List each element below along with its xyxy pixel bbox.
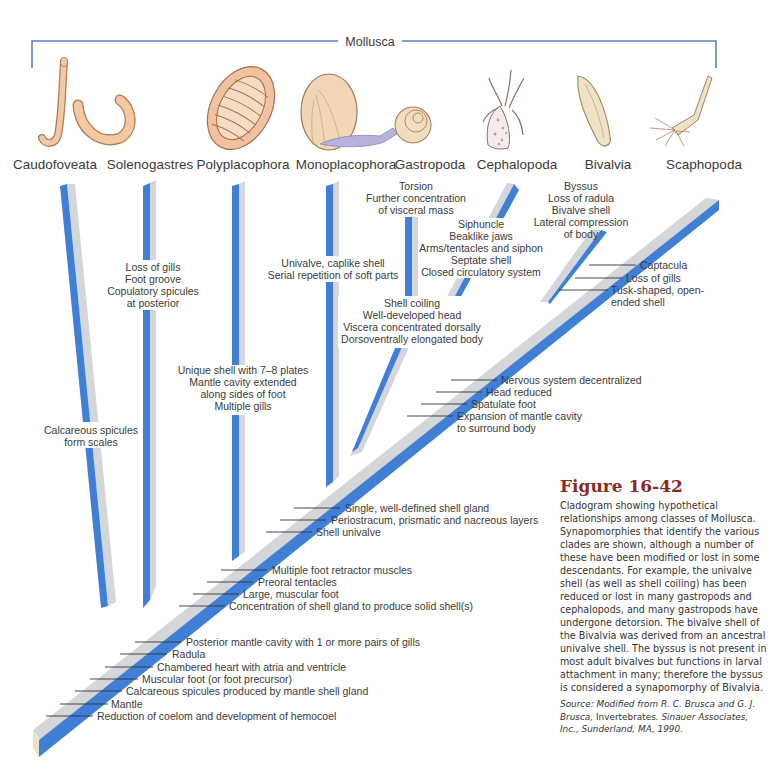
trait: Loss of gills (126, 261, 181, 273)
trait: Bivalve shell (552, 204, 610, 216)
taxon-gastropoda: Gastropoda (395, 157, 466, 172)
trait: Radula (172, 648, 205, 660)
traits-caudofoveata: Calcareous spicules form scales (40, 422, 140, 448)
trait: Shell univalve (316, 526, 381, 538)
trait: Calcareous spicules (44, 424, 138, 436)
branch-monoplacophora (326, 181, 339, 487)
branch-solenogastres (143, 180, 156, 608)
trait: Large, muscular foot (243, 588, 339, 600)
trait: Foot groove (125, 273, 181, 285)
figure-title: Figure 16-42 (560, 476, 768, 496)
tusk-shell-icon (650, 76, 712, 146)
figure-source: Source: Modified from R. C. Brusca and G… (560, 698, 768, 736)
traits-gastro-cephalo: Shell coiling Well-developed head Viscer… (338, 296, 488, 348)
trait: Nervous system decentralized (501, 374, 642, 386)
trait: Univalve, caplike shell (281, 257, 384, 269)
trait: Mantle (111, 698, 143, 710)
worm-hook-icon (42, 58, 68, 143)
taxon-scaphopoda: Scaphopoda (666, 157, 742, 172)
trait: form scales (64, 436, 118, 448)
trait: Concentration of shell gland to produce … (229, 600, 473, 612)
trait: Expansion of mantle cavity (457, 410, 583, 422)
trait: Dorsoventrally elongated body (341, 333, 484, 345)
taxon-polyplacophora: Polyplacophora (196, 157, 290, 172)
trait: Chambered heart with atria and ventricle (157, 661, 346, 673)
figure-caption: Figure 16-42 Cladogram showing hypotheti… (560, 476, 768, 736)
taxon-bivalvia: Bivalvia (585, 157, 632, 172)
branch-caudofoveata (60, 184, 116, 608)
source-book: Invertebrates (596, 712, 656, 722)
clam-icon (578, 76, 611, 146)
trait: of visceral mass (378, 204, 453, 216)
trait: Further concentration (366, 192, 466, 204)
chiton-icon (194, 55, 288, 161)
worm-curl-icon (78, 100, 130, 140)
trait: Loss of gills (626, 272, 681, 284)
trait: Byssus (564, 180, 598, 192)
traits-cephalopoda: Siphuncle Beaklike jaws Arms/tentacles a… (419, 218, 545, 278)
figure-caption-text: Cladogram showing hypothetical relations… (560, 499, 768, 694)
taxon-labels: Caudofoveata Solenogastres Polyplacophor… (13, 157, 742, 172)
trait: Well-developed head (363, 309, 462, 321)
taxon-solenogastres: Solenogastres (107, 157, 194, 172)
traits-monoplacophora: Univalve, caplike shell Serial repetitio… (265, 256, 401, 282)
trait: Siphuncle (458, 218, 504, 230)
trait: Multiple foot retractor muscles (272, 564, 412, 576)
trait: Periostracum, prismatic and nacreous lay… (331, 514, 538, 526)
clade-label-mollusca: Mollusca (345, 35, 394, 49)
trait: to surround body (457, 422, 537, 434)
taxon-monoplacophora: Monoplacophora (296, 157, 397, 172)
trait: ended shell (611, 296, 665, 308)
traits-solenogastres: Loss of gills Foot groove Copulatory spi… (105, 260, 200, 310)
trait: Posterior mantle cavity with 1 or more p… (186, 636, 420, 648)
trait: Spatulate foot (471, 398, 536, 410)
trait: Single, well-defined shell gland (345, 502, 489, 514)
trait: Muscular foot (or foot precursor) (142, 673, 292, 685)
trait: Head reduced (486, 386, 552, 398)
trait: along sides of foot (200, 388, 285, 400)
trait: Copulatory spicules (107, 285, 199, 297)
trait: Serial repetition of soft parts (268, 269, 399, 281)
trait: Multiple gills (214, 400, 271, 412)
taxon-caudofoveata: Caudofoveata (13, 157, 98, 172)
trait: Unique shell with 7–8 plates (178, 364, 309, 376)
bracket-right-line (402, 41, 716, 68)
trait: Shell coiling (384, 297, 440, 309)
trait: Arms/tentacles and siphon (419, 242, 543, 254)
trait: Viscera concentrated dorsally (343, 321, 481, 333)
traits-bivalvia: Byssus Loss of radula Bivalve shell Late… (534, 180, 629, 240)
trait: Closed circulatory system (421, 266, 541, 278)
trait: Loss of radula (548, 192, 614, 204)
organism-illustrations (42, 55, 712, 161)
trait: Torsion (399, 180, 433, 192)
trait: Lateral compression (534, 216, 629, 228)
trait: Reduction of coelom and development of h… (97, 710, 336, 722)
trait: Tusk-shaped, open- (611, 284, 705, 296)
traits-polyplacophora: Unique shell with 7–8 plates Mantle cavi… (178, 364, 310, 415)
trait: Mantle cavity extended (189, 376, 297, 388)
traits-gastropoda: Torsion Further concentration of viscera… (366, 180, 466, 216)
taxon-cephalopoda: Cephalopoda (477, 157, 558, 172)
trait: Captacula (640, 259, 687, 271)
trait: of body (564, 228, 599, 240)
trait: Preoral tentacles (258, 576, 337, 588)
mollusca-bracket: Mollusca (32, 35, 716, 68)
squid-icon (483, 70, 524, 149)
trait: Beaklike jaws (449, 230, 513, 242)
trait: at posterior (127, 297, 180, 309)
trait: Calcareous spicules produced by mantle s… (126, 685, 368, 697)
bracket-left-line (32, 41, 338, 68)
trait: Septate shell (451, 254, 512, 266)
